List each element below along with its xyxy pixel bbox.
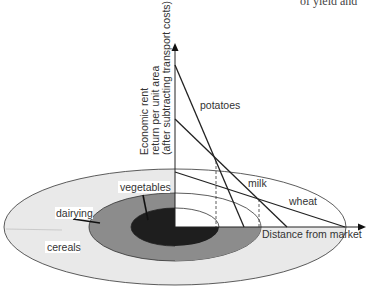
von-thunen-diagram: vegetables dairying cereals potatoes mil… (0, 0, 369, 287)
y-axis-label-line3: (after subtracting transport costs) (160, 1, 172, 155)
y-axis-arrow-icon (172, 43, 179, 51)
label-wheat: wheat (288, 195, 317, 207)
x-axis-label: Distance from market (262, 228, 362, 240)
label-potatoes: potatoes (200, 99, 240, 111)
corner-text: of yield and (300, 0, 357, 8)
label-vegetables: vegetables (120, 181, 171, 193)
label-dairying: dairying (56, 207, 93, 219)
chart-quadrant (175, 150, 369, 227)
label-cereals: cereals (47, 241, 81, 253)
label-milk: milk (248, 177, 267, 189)
